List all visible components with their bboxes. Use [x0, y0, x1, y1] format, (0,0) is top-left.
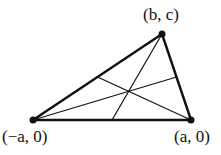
median-from-top: [112, 34, 162, 120]
vertex-left-label: (−a, 0): [2, 128, 47, 145]
vertex-top-label: (b, c): [143, 6, 179, 23]
vertex-left-point: [30, 117, 37, 124]
median-from-left: [33, 77, 177, 120]
median-from-right: [98, 77, 192, 120]
vertex-right-point: [188, 117, 195, 124]
triangle: [33, 34, 191, 120]
vertex-right-label: (a, 0): [174, 128, 210, 145]
vertex-top-point: [159, 31, 166, 38]
